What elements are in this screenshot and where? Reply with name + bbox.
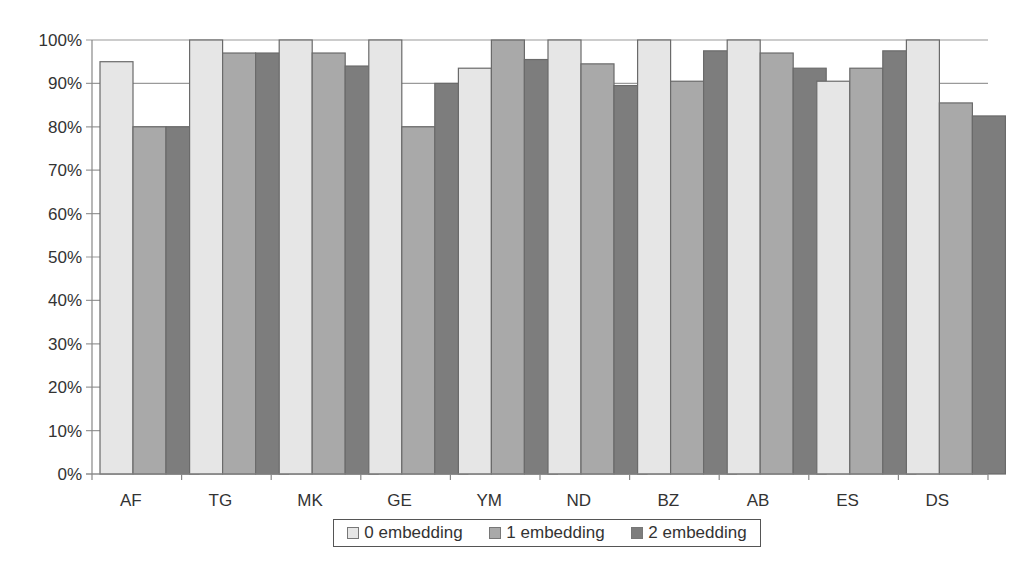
bar bbox=[458, 68, 491, 474]
legend-label: 2 embedding bbox=[648, 523, 746, 543]
legend-label: 0 embedding bbox=[364, 523, 462, 543]
legend-swatch bbox=[489, 527, 501, 539]
x-tick-label: MK bbox=[297, 491, 323, 510]
y-tick-label: 50% bbox=[48, 248, 82, 267]
x-tick-label: BZ bbox=[658, 491, 680, 510]
bar bbox=[850, 68, 883, 474]
bar bbox=[760, 53, 793, 474]
bar bbox=[491, 40, 524, 474]
bar bbox=[133, 127, 166, 474]
x-tick-label: DS bbox=[925, 491, 949, 510]
y-tick-label: 20% bbox=[48, 378, 82, 397]
y-tick-label: 10% bbox=[48, 422, 82, 441]
y-tick-label: 60% bbox=[48, 205, 82, 224]
x-tick-label: ND bbox=[567, 491, 592, 510]
bar bbox=[190, 40, 223, 474]
legend-item-0-embedding: 0 embedding bbox=[347, 523, 462, 543]
bar bbox=[402, 127, 435, 474]
x-tick-label: TG bbox=[209, 491, 233, 510]
legend-swatch bbox=[347, 527, 359, 539]
legend-label: 1 embedding bbox=[506, 523, 604, 543]
bar bbox=[906, 40, 939, 474]
bar bbox=[100, 62, 133, 474]
bar bbox=[939, 103, 972, 474]
x-tick-label: YM bbox=[476, 491, 502, 510]
bar bbox=[279, 40, 312, 474]
bar bbox=[369, 40, 402, 474]
y-tick-label: 0% bbox=[57, 465, 82, 484]
x-tick-label: GE bbox=[387, 491, 412, 510]
bar bbox=[638, 40, 671, 474]
y-tick-label: 90% bbox=[48, 74, 82, 93]
bar bbox=[581, 64, 614, 474]
y-tick-label: 40% bbox=[48, 291, 82, 310]
y-tick-label: 70% bbox=[48, 161, 82, 180]
bar bbox=[817, 81, 850, 474]
x-tick-label: AF bbox=[120, 491, 142, 510]
legend-item-2-embedding: 2 embedding bbox=[631, 523, 746, 543]
legend-swatch bbox=[631, 527, 643, 539]
y-tick-label: 30% bbox=[48, 335, 82, 354]
legend-item-1-embedding: 1 embedding bbox=[489, 523, 604, 543]
bar bbox=[548, 40, 581, 474]
bar-chart: 0%10%20%30%40%50%60%70%80%90%100%AFTGMKG… bbox=[0, 0, 1014, 520]
x-tick-label: AB bbox=[747, 491, 770, 510]
legend: 0 embedding 1 embedding 2 embedding bbox=[333, 519, 761, 547]
bar bbox=[972, 116, 1005, 474]
bar bbox=[223, 53, 256, 474]
bar bbox=[671, 81, 704, 474]
y-tick-label: 80% bbox=[48, 118, 82, 137]
bar bbox=[727, 40, 760, 474]
bar bbox=[312, 53, 345, 474]
x-tick-label: ES bbox=[836, 491, 859, 510]
y-tick-label: 100% bbox=[39, 31, 82, 50]
